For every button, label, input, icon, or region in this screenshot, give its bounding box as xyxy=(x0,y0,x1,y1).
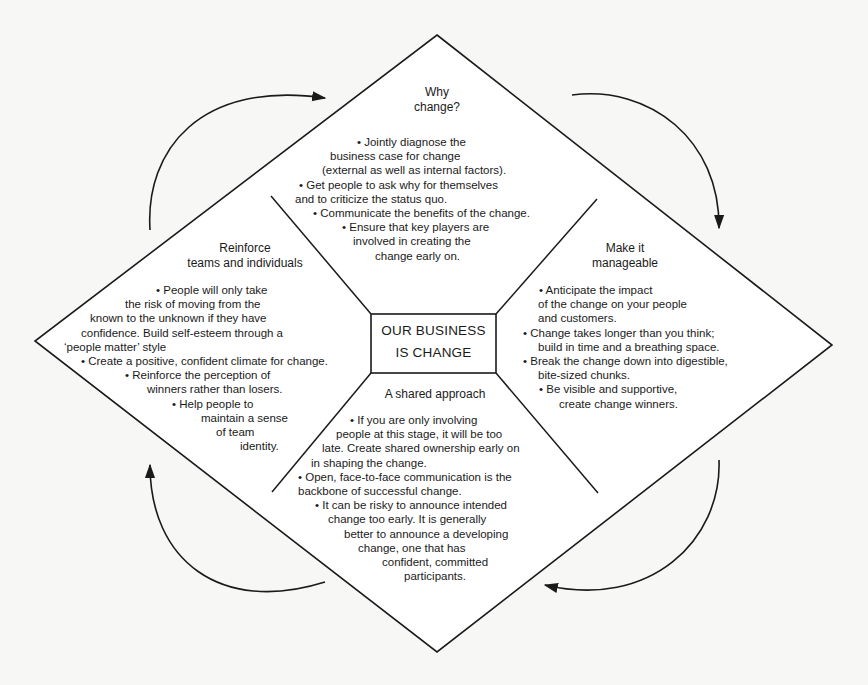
text-line: create change winners. xyxy=(537,397,797,411)
text-line: and customers. xyxy=(537,311,797,325)
text-line: ‘people matter’ style xyxy=(60,340,380,354)
title-line: manageable xyxy=(565,256,685,271)
center-title: OUR BUSINESS IS CHANGE xyxy=(371,320,496,364)
text-line: • Be visible and supportive, xyxy=(537,382,797,396)
section-bottom-body: • If you are only involving people at th… xyxy=(290,413,610,583)
section-bottom-title: A shared approach xyxy=(360,387,510,402)
text-line: • Jointly diagnose the xyxy=(295,135,595,149)
text-line: backbone of successful change. xyxy=(290,484,610,498)
text-line: in shaping the change. xyxy=(290,456,610,470)
text-line: participants. xyxy=(290,569,610,583)
text-line: change too early. It is generally xyxy=(290,512,610,526)
text-line: (external as well as internal factors). xyxy=(295,163,595,177)
text-line: involved in creating the xyxy=(295,234,595,248)
text-line: • If you are only involving xyxy=(290,413,610,427)
text-line: • Change takes longer than you think; xyxy=(523,326,797,340)
text-line: people at this stage, it will be too xyxy=(290,427,610,441)
text-line: • Ensure that key players are xyxy=(295,220,595,234)
title-line: Why xyxy=(387,85,487,100)
section-top-title: Why change? xyxy=(387,85,487,115)
center-line: IS CHANGE xyxy=(371,342,496,364)
text-line: • Open, face-to-face communication is th… xyxy=(290,470,610,484)
text-line: better to announce a developing xyxy=(290,527,610,541)
text-line: late. Create shared ownership early on xyxy=(290,441,610,455)
title-line: A shared approach xyxy=(360,387,510,402)
text-line: • Get people to ask why for themselves xyxy=(295,178,595,192)
text-line: and to criticize the status quo. xyxy=(295,192,595,206)
text-line: • Anticipate the impact xyxy=(537,283,797,297)
section-left-title: Reinforce teams and individuals xyxy=(170,241,320,271)
text-line: change, one that has xyxy=(290,541,610,555)
text-line: • It can be risky to announce intended xyxy=(290,498,610,512)
text-line: • Communicate the benefits of the change… xyxy=(295,206,595,220)
text-line: • Create a positive, confident climate f… xyxy=(60,354,380,368)
text-line: winners rather than losers. xyxy=(60,382,380,396)
title-line: change? xyxy=(387,100,487,115)
text-line: • Help people to xyxy=(60,397,380,411)
text-line: change early on. xyxy=(295,249,595,263)
title-line: teams and individuals xyxy=(170,256,320,271)
text-line: • People will only take xyxy=(60,283,380,297)
text-line: • Reinforce the perception of xyxy=(60,368,380,382)
section-right-title: Make it manageable xyxy=(565,241,685,271)
text-line: confident, committed xyxy=(290,555,610,569)
text-line: bite-sized chunks. xyxy=(537,368,797,382)
text-line: business case for change xyxy=(295,149,595,163)
center-line: OUR BUSINESS xyxy=(371,320,496,342)
text-line: the risk of moving from the xyxy=(60,297,380,311)
text-line: • Break the change down into digestible, xyxy=(523,354,797,368)
text-line: known to the unknown if they have xyxy=(60,311,380,325)
text-line: of the change on your people xyxy=(537,297,797,311)
title-line: Make it xyxy=(565,241,685,256)
text-line: confidence. Build self-esteem through a xyxy=(60,326,380,340)
section-right-body: • Anticipate the impact of the change on… xyxy=(537,283,797,411)
text-line: build in time and a breathing space. xyxy=(537,340,797,354)
section-top-body: • Jointly diagnose the business case for… xyxy=(295,135,595,263)
title-line: Reinforce xyxy=(170,241,320,256)
